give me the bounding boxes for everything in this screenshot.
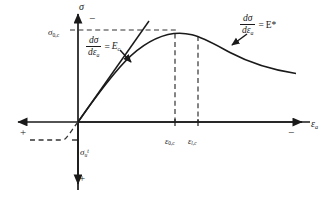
tension-branch-group	[28, 122, 78, 140]
sigma-0c-sub: 0,c	[52, 32, 59, 38]
strain-axis-negative-sign: −	[288, 127, 294, 138]
stress-strain-diagram: σ εa − + + − σ0,c σut ε0,c εl,c dσ dεa =…	[0, 0, 331, 199]
es-numerator: dσ	[241, 14, 254, 24]
softening-annotation-arrow	[232, 34, 247, 45]
stress-axis-negative-sign: −	[89, 13, 95, 24]
es-fraction: dσ dεa	[240, 14, 255, 35]
softening-modulus-formula: dσ dεa = E*	[240, 14, 276, 35]
tension-branch-curve	[28, 122, 78, 140]
ec-rhs: Ec	[112, 41, 120, 52]
es-rhs: E*	[266, 20, 277, 30]
sigma-0c-label: σ0,c	[48, 28, 59, 38]
stress-axis-label: σ	[79, 2, 84, 12]
ec-denominator-sub: a	[97, 51, 100, 57]
es-denominator: dεa	[240, 24, 255, 35]
eps-lc-sub: l,c	[191, 140, 196, 146]
strain-axis-label-sub: a	[315, 123, 318, 130]
ec-equals-sign: =	[104, 42, 109, 52]
es-rhs-sup: *	[272, 20, 277, 30]
es-denominator-sub: a	[251, 29, 254, 35]
eps-0c-tick-label: ε0,c	[165, 137, 175, 147]
initial-tangent-modulus-formula: dσ dεa = Ec	[86, 36, 120, 57]
sigma-ut-sup: t	[87, 148, 89, 154]
ec-rhs-sub: c	[118, 46, 121, 52]
eps-lc-tick-label: εl,c	[188, 137, 196, 147]
axes-group	[18, 14, 310, 190]
ec-denominator-base: dε	[88, 47, 97, 57]
es-denominator-base: dε	[242, 25, 251, 35]
ec-denominator: dεa	[86, 46, 101, 57]
es-equals-sign: =	[258, 20, 263, 30]
ec-numerator: dσ	[87, 36, 100, 46]
strain-axis-positive-sign: +	[20, 127, 26, 138]
stress-axis-positive-sign: +	[79, 173, 85, 184]
strain-axis-label: εa	[311, 119, 318, 130]
eps-0c-sub: 0,c	[168, 140, 174, 146]
ec-fraction: dσ dεa	[86, 36, 101, 57]
sigma-ut-label: σut	[80, 148, 89, 158]
